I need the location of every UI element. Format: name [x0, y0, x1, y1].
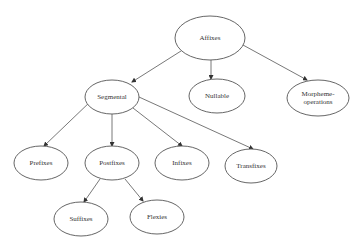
node-transfixes: Transfixes: [225, 149, 277, 183]
node-infixes: Infixes: [155, 146, 209, 180]
node-label-line2: operations: [303, 98, 332, 106]
node-label: Infixes: [172, 159, 192, 167]
node-label: Flexies: [147, 213, 167, 221]
node-label: Affixes: [200, 34, 221, 42]
node-nullable: Nullable: [189, 79, 245, 113]
node-label: Transfixes: [236, 162, 266, 170]
node-label: Nullable: [205, 92, 229, 100]
node-label: Segmental: [97, 93, 127, 101]
node-segmental: Segmental: [85, 80, 139, 114]
node-suffixes: Suffixes: [54, 202, 108, 236]
edge-affixes-segmental: [132, 51, 181, 82]
node-affixes: Affixes: [175, 16, 245, 60]
edge-postfixes-flexies: [125, 179, 143, 201]
edge-postfixes-suffixes: [84, 179, 100, 202]
edge-affixes-morpheme-operations: [243, 45, 307, 80]
node-morpheme-operations: Morpheme- operations: [287, 80, 349, 116]
node-flexies: Flexies: [130, 200, 184, 234]
node-label: Postfixes: [99, 159, 125, 167]
node-label: Suffixes: [69, 215, 92, 223]
node-label: Morpheme-: [301, 90, 335, 98]
node-label: Prefixes: [30, 159, 53, 167]
node-prefixes: Prefixes: [14, 146, 68, 180]
affix-tree-diagram: Affixes Segmental Nullable Morpheme- ope…: [0, 0, 350, 246]
node-postfixes: Postfixes: [85, 146, 139, 180]
edge-segmental-prefixes: [44, 100, 92, 146]
